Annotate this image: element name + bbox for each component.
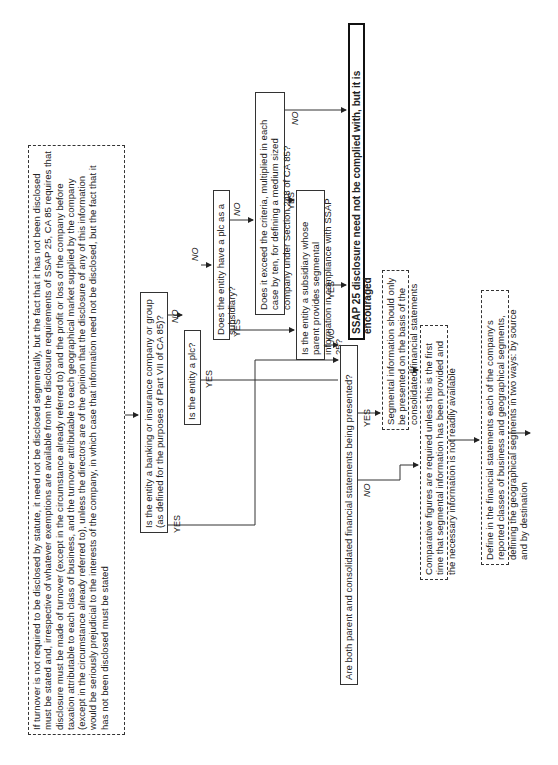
question-plc-subsidiary: Does the entity have a plc as a subsidia… xyxy=(213,190,230,340)
label-plc-yes: YES xyxy=(204,370,214,388)
question-both-statements-presented: Are both parent and consolidated financi… xyxy=(340,345,358,685)
question-is-plc: Is the entity a plc? xyxy=(184,330,201,425)
label-parent-segmental-yes: YES xyxy=(326,281,336,299)
rotated-flowchart-page: If turnover is not required to be disclo… xyxy=(0,0,558,765)
question-banking-insurance: Is the entity a banking or insurance com… xyxy=(140,292,168,533)
label-banking-yes: YES xyxy=(172,515,182,533)
label-both-no: NO xyxy=(362,484,372,498)
label-both-yes: YES xyxy=(362,409,372,427)
note-define-segments: Define in the financial statements each … xyxy=(481,290,509,565)
label-subsidiary-no: NO xyxy=(232,203,242,217)
question-exceeds-criteria: Does it exceed the criteria, multiplied … xyxy=(255,92,285,315)
label-criteria-no: NO xyxy=(290,112,300,126)
label-plc-no: NO xyxy=(190,248,200,262)
label-criteria-yes: YES xyxy=(286,192,296,210)
turnover-disclosure-note: If turnover is not required to be disclo… xyxy=(28,145,125,735)
note-consolidated-basis: Segmental information should only be pre… xyxy=(382,270,409,430)
label-banking-no: NO xyxy=(170,310,180,324)
label-parent-segmental-no: NO xyxy=(326,329,336,343)
label-subsidiary-yes: YES xyxy=(232,319,242,337)
outcome-ssap25-not-required: SSAP 25 disclosure need not be complied … xyxy=(348,23,365,340)
note-comparative-figures: Comparative figures are required unless … xyxy=(420,325,448,580)
question-parent-provides-segmental: Is the entity a subsidiary whose parent … xyxy=(296,190,325,360)
